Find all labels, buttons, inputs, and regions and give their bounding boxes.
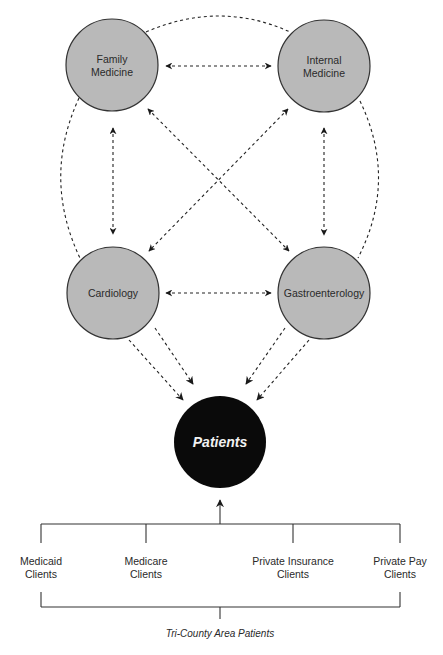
arrow-cardiology-patients-outer (129, 340, 183, 400)
arrow-cardiology-patients-inner (155, 328, 193, 384)
node-label-line1: Family (97, 53, 129, 65)
node-label-line2: Medicine (91, 66, 133, 78)
node-internal-medicine: Internal Medicine (278, 20, 370, 112)
client-label-line1: Private Insurance (252, 555, 334, 567)
client-group-medicaid: Medicaid Clients (20, 555, 62, 580)
patients-label: Patients (193, 434, 248, 450)
client-bracket-top (41, 500, 400, 543)
node-gastroenterology: Gastroenterology (278, 247, 370, 339)
client-group-medicare: Medicare Clients (124, 555, 167, 580)
client-label-line1: Medicaid (20, 555, 62, 567)
node-label: Cardiology (88, 287, 139, 299)
client-label-line1: Medicare (124, 555, 167, 567)
client-group-private-pay: Private Pay Clients (373, 555, 427, 580)
node-cardiology: Cardiology (67, 247, 159, 339)
client-label-line2: Clients (130, 568, 162, 580)
client-label-line2: Clients (277, 568, 309, 580)
node-label-line2: Medicine (303, 67, 345, 79)
arc-left (61, 98, 80, 258)
client-group-private-insurance: Private Insurance Clients (252, 555, 334, 580)
area-label: Tri-County Area Patients (166, 628, 274, 639)
node-label-line1: Internal (306, 54, 341, 66)
node-patients: Patients (174, 396, 266, 488)
client-label-line2: Clients (384, 568, 416, 580)
arrow-gastro-patients-inner (246, 328, 285, 384)
node-family-medicine: Family Medicine (66, 19, 158, 111)
client-bracket-bottom (41, 592, 400, 619)
arc-top (146, 16, 290, 32)
arc-right (358, 101, 379, 258)
node-label: Gastroenterology (284, 287, 365, 299)
referral-network-diagram: Family Medicine Internal Medicine Cardio… (0, 0, 443, 655)
client-label-line1: Private Pay (373, 555, 427, 567)
patient-referral-arrows (129, 328, 309, 400)
arrow-gastro-patients-outer (257, 340, 309, 400)
client-label-line2: Clients (25, 568, 57, 580)
